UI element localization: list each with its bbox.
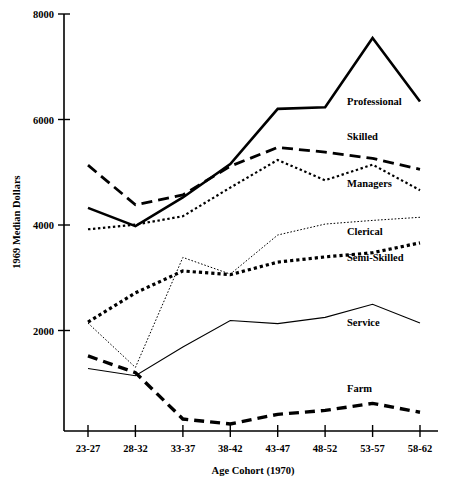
- series-labels-group: ProfessionalSkilledManagersClericalSemi-…: [347, 96, 404, 394]
- series-line-skilled: [88, 147, 420, 204]
- series-line-service: [88, 304, 420, 375]
- series-label-skilled: Skilled: [347, 131, 378, 142]
- x-axis-title: Age Cohort (1970): [212, 465, 295, 477]
- x-tick-label-2: 33-37: [171, 443, 196, 454]
- line-chart: 8000 6000 4000 2000 23-27 28-32 33-37 38…: [0, 0, 449, 485]
- y-axis-title: 1969 Median Dollars: [11, 175, 22, 268]
- x-tick-label-4: 43-47: [265, 443, 290, 454]
- y-tick-label-4000: 4000: [33, 220, 54, 231]
- series-label-service: Service: [347, 317, 380, 328]
- x-tick-label-3: 38-42: [218, 443, 243, 454]
- series-label-farm: Farm: [347, 383, 372, 394]
- series-label-semi-skilled: Semi-Skilled: [347, 252, 404, 263]
- y-tick-label-8000: 8000: [33, 9, 54, 20]
- chart-container: 8000 6000 4000 2000 23-27 28-32 33-37 38…: [0, 0, 449, 485]
- y-tick-label-2000: 2000: [33, 326, 54, 337]
- y-tick-label-6000: 6000: [33, 115, 54, 126]
- series-label-clerical: Clerical: [347, 226, 383, 237]
- x-tick-label-1: 28-32: [123, 443, 148, 454]
- x-tick-label-7: 58-62: [408, 443, 433, 454]
- x-ticks-group: 23-27 28-32 33-37 38-42 43-47 48-52 53-5…: [76, 425, 433, 454]
- series-line-managers: [88, 160, 420, 229]
- series-label-managers: Managers: [347, 178, 392, 189]
- x-tick-label-0: 23-27: [76, 443, 101, 454]
- series-label-professional: Professional: [347, 96, 402, 107]
- x-tick-label-6: 53-57: [360, 443, 385, 454]
- x-tick-label-5: 48-52: [313, 443, 338, 454]
